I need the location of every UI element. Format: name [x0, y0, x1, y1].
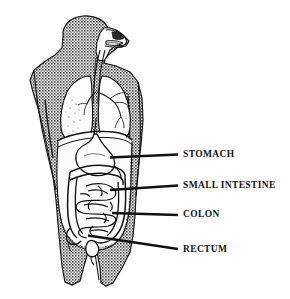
anatomy-illustration: [0, 0, 290, 299]
rectum-body: [86, 240, 99, 256]
callout-label-colon: COLON: [183, 210, 220, 220]
head-profile: [96, 28, 127, 61]
anal-canal: [91, 257, 94, 265]
callout-label-small-intestine: SMALL INTESTINE: [183, 181, 276, 191]
callout-label-rectum: RECTUM: [183, 245, 227, 255]
nasal-cavity: [112, 32, 124, 40]
digestive-system-figure: STOMACH SMALL INTESTINE COLON RECTUM: [0, 0, 290, 299]
callout-label-stomach: STOMACH: [183, 150, 234, 160]
rectum: [86, 240, 99, 265]
